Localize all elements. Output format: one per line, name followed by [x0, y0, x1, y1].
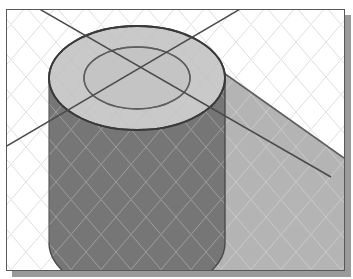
render-viewport[interactable] [6, 9, 345, 271]
scene-metadata: cylinder-with-counterbore Isometric Isom… [0, 0, 1, 1]
screenshot-stage: cylinder-with-counterbore Isometric Isom… [0, 0, 353, 279]
scene-name-label: cylinder-with-counterbore [0, 0, 1, 1]
isometric-scene[interactable] [7, 10, 344, 270]
